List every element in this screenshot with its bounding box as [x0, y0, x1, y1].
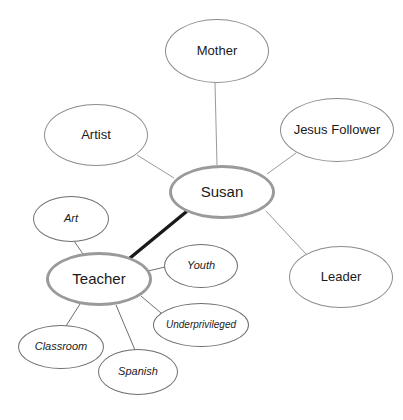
- node-label-artist: Artist: [81, 128, 111, 142]
- node-label-susan: Susan: [201, 184, 244, 200]
- node-label-spanish: Spanish: [118, 366, 158, 378]
- node-underprivileged[interactable]: Underprivileged: [153, 303, 249, 347]
- node-label-teacher: Teacher: [72, 271, 125, 287]
- node-label-mother: Mother: [197, 44, 237, 58]
- concept-map-nodes: SusanTeacherMotherArtistJesus FollowerLe…: [0, 0, 403, 420]
- node-youth[interactable]: Youth: [164, 244, 238, 288]
- node-label-art: Art: [64, 213, 78, 225]
- node-teacher[interactable]: Teacher: [46, 252, 152, 306]
- node-label-classroom: Classroom: [35, 341, 88, 353]
- node-susan[interactable]: Susan: [169, 165, 275, 219]
- node-label-leader: Leader: [321, 270, 361, 284]
- node-classroom[interactable]: Classroom: [18, 325, 104, 369]
- node-mother[interactable]: Mother: [165, 19, 269, 83]
- node-leader[interactable]: Leader: [289, 246, 393, 308]
- node-label-youth: Youth: [187, 260, 215, 272]
- node-art[interactable]: Art: [33, 196, 109, 242]
- node-spanish[interactable]: Spanish: [98, 349, 178, 395]
- node-jesus-follower[interactable]: Jesus Follower: [280, 98, 394, 162]
- node-label-underprivileged: Underprivileged: [166, 320, 236, 331]
- node-artist[interactable]: Artist: [44, 104, 148, 166]
- node-label-jesus-follower: Jesus Follower: [294, 123, 381, 137]
